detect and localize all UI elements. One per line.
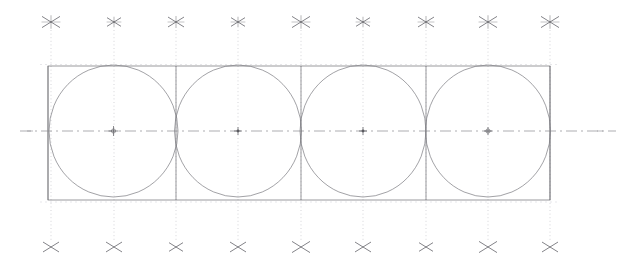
bottom-marker-7: [419, 243, 433, 252]
top-marker-6: [356, 17, 371, 28]
construction-lines-layer: [51, 30, 550, 240]
center-mark-4: [484, 127, 492, 135]
top-marker-5: [292, 15, 311, 29]
center-mark-1: [109, 126, 119, 136]
bottom-marker-1: [43, 242, 59, 252]
bottom-marker-2: [106, 242, 122, 252]
top-marker-4: [231, 17, 246, 28]
center-mark-3-dot: [362, 130, 365, 133]
bounding-rectangle: [48, 66, 550, 200]
bounding-rectangle-layer: [40, 65, 558, 203]
center-mark-2: [234, 127, 242, 135]
drawing-canvas: Four Tangent Circles Construction Layout: [0, 0, 634, 264]
technical-drawing: [0, 0, 634, 264]
top-marker-8: [479, 15, 498, 29]
top-marker-3: [168, 16, 185, 28]
bottom-marker-4: [230, 242, 246, 252]
bottom-marker-3: [169, 243, 183, 252]
cell-dividers-layer: [48, 66, 550, 200]
center-mark-3: [359, 127, 367, 135]
bottom-marker-5: [292, 241, 310, 252]
bottom-marker-8: [479, 241, 497, 252]
bottom-marker-6: [355, 242, 371, 252]
top-markers-layer: [42, 15, 560, 29]
bottom-markers-layer: [43, 241, 558, 252]
bottom-marker-9: [542, 242, 558, 252]
top-marker-2: [107, 17, 122, 28]
top-marker-7: [418, 16, 435, 28]
top-marker-9: [541, 15, 560, 29]
top-marker-1: [42, 15, 61, 29]
center-mark-2-dot: [237, 130, 240, 133]
